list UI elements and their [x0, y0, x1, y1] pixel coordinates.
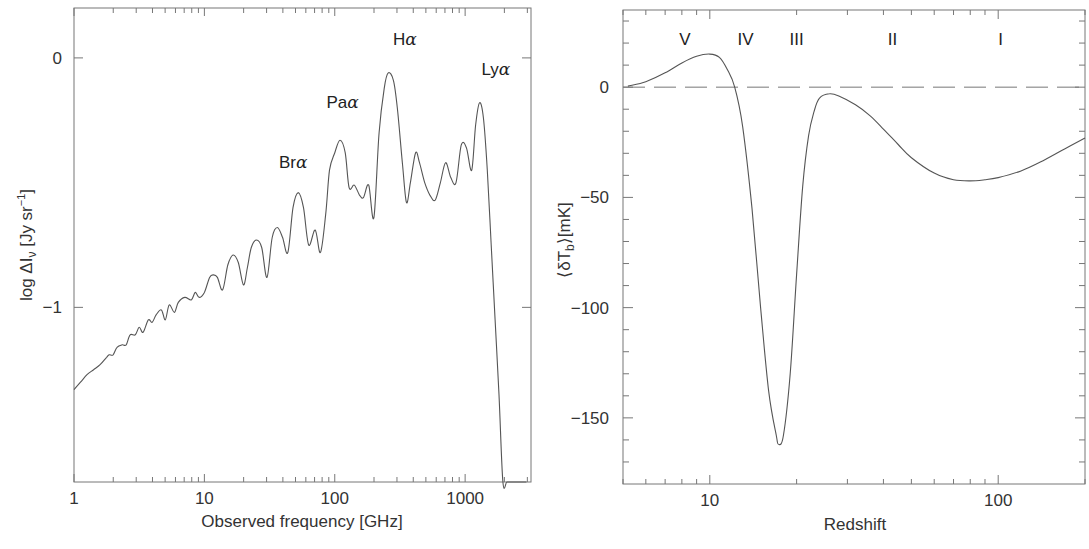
left-x-tick-label: 10 — [195, 489, 214, 508]
right-y-tick-label: −150 — [571, 409, 609, 428]
right-x-ticks: 10100 — [623, 10, 1085, 510]
left-y-ticks: 0−1 — [43, 49, 531, 317]
region-label-ii: II — [888, 30, 897, 49]
left-y-tick-label: 0 — [53, 49, 62, 68]
left-plot-frame — [74, 8, 531, 482]
region-label-iii: III — [790, 30, 804, 49]
right-y-tick-label: 0 — [600, 78, 609, 97]
region-label-i: I — [998, 30, 1003, 49]
left-line-annotations: BrαPaαHαLyα — [279, 29, 511, 171]
line-label-h: Hα — [393, 29, 417, 49]
right-chart: 10100 0−50−100−150 VIVIIIIII Redshift ⟨δ… — [555, 10, 1085, 534]
left-x-tick-label: 100 — [321, 489, 349, 508]
line-label-br: Brα — [279, 152, 308, 172]
left-x-tick-label: 1000 — [446, 489, 484, 508]
right-plot-frame — [623, 10, 1085, 484]
right-x-axis-label: Redshift — [824, 515, 887, 534]
right-y-tick-label: −100 — [571, 299, 609, 318]
line-label-ly: Lyα — [481, 59, 510, 79]
right-x-tick-label: 10 — [700, 491, 719, 510]
left-x-axis-label: Observed frequency [GHz] — [201, 512, 402, 531]
left-y-axis-label: log ΔIν [Jy sr−1] — [15, 189, 39, 301]
right-signal-line — [628, 54, 1085, 445]
right-y-axis-label: ⟨δTb⟩[mK] — [555, 202, 577, 278]
right-y-tick-label: −50 — [580, 188, 609, 207]
figure: 1101001000 0−1 BrαPaαHαLyα Observed freq… — [0, 0, 1089, 549]
left-y-tick-label: −1 — [43, 298, 62, 317]
left-x-ticks: 1101001000 — [69, 8, 527, 508]
left-spectrum-line — [74, 73, 526, 489]
left-chart: 1101001000 0−1 BrαPaαHαLyα Observed freq… — [15, 8, 531, 531]
region-label-v: V — [679, 30, 691, 49]
line-label-pa: Paα — [327, 92, 360, 112]
epoch-region-labels: VIVIIIIII — [679, 30, 1003, 49]
region-label-iv: IV — [737, 30, 754, 49]
left-x-tick-label: 1 — [69, 489, 78, 508]
right-x-tick-label: 100 — [984, 491, 1012, 510]
